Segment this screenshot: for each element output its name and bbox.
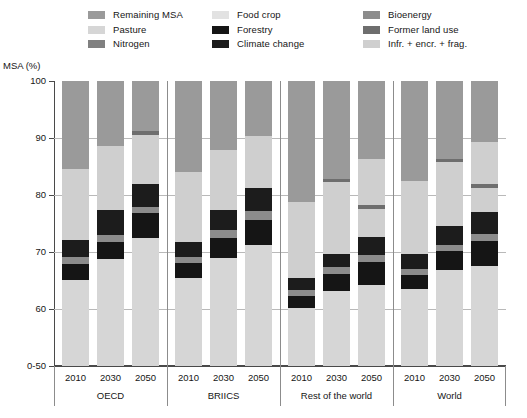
bar-group-oecd	[54, 81, 167, 366]
x-group-world: 201020302050World	[393, 366, 506, 418]
bar-segment-pasture	[288, 308, 315, 366]
bar-segment-climate_change	[358, 237, 385, 255]
x-axis: 201020302050OECD201020302050BRIICS201020…	[54, 366, 506, 418]
stacked-bar[interactable]	[175, 81, 202, 366]
y-tick-label: 70	[35, 246, 46, 257]
x-tick-label-year: 2050	[132, 372, 159, 383]
bar-segment-remaining_msa	[97, 81, 124, 146]
bar-segment-bioenergy	[471, 234, 498, 241]
stacked-bar[interactable]	[358, 81, 385, 366]
bar-segment-infr_encr_frag	[471, 188, 498, 212]
legend-label: Bioenergy	[388, 10, 432, 20]
legend-item-pasture[interactable]: Pasture	[88, 23, 183, 38]
bar-segment-forestry	[132, 213, 159, 238]
bar-segment-climate_change	[175, 242, 202, 257]
x-group-briics: 201020302050BRIICS	[167, 366, 280, 418]
stacked-bar[interactable]	[132, 81, 159, 366]
bar-segment-bioenergy	[358, 255, 385, 262]
bar-segment-pasture	[401, 289, 428, 366]
legend-column: Remaining MSAPastureNitrogen	[88, 8, 183, 52]
bar-segment-climate_change	[471, 212, 498, 234]
bar-segment-forestry	[97, 242, 124, 259]
x-tick-label-year: 2030	[97, 372, 124, 383]
bar-segment-remaining_msa	[210, 81, 237, 150]
bar-segment-remaining_msa	[358, 81, 385, 159]
legend-label: Climate change	[237, 39, 304, 49]
stacked-bar[interactable]	[401, 81, 428, 366]
y-axis-title: MSA (%)	[3, 60, 40, 71]
legend-item-former_land_use[interactable]: Former land use	[363, 23, 467, 38]
bar-segment-bioenergy	[62, 257, 89, 264]
legend-item-bioenergy[interactable]: Bioenergy	[363, 8, 467, 23]
bar-segment-infr_encr_frag	[358, 159, 385, 205]
bar-segment-infr_encr_frag	[245, 136, 272, 188]
x-group-label: World	[393, 390, 506, 401]
legend-item-climate_change[interactable]: Climate change	[212, 37, 304, 52]
bar-segment-infr_encr_frag	[358, 209, 385, 236]
bar-segment-remaining_msa	[323, 81, 350, 179]
bar-segment-infr_encr_frag	[62, 169, 89, 240]
bar-segment-forestry	[471, 241, 498, 266]
x-tick-label-year: 2030	[210, 372, 237, 383]
legend-item-food_crop[interactable]: Food crop	[212, 8, 304, 23]
bar-segment-forestry	[358, 262, 385, 285]
x-tick-label-year: 2030	[323, 372, 350, 383]
bar-segment-infr_encr_frag	[436, 162, 463, 226]
bar-segment-climate_change	[62, 240, 89, 257]
legend-item-nitrogen[interactable]: Nitrogen	[88, 37, 183, 52]
bar-segment-remaining_msa	[401, 81, 428, 181]
legend-label: Food crop	[237, 10, 281, 20]
bar-segment-forestry	[62, 264, 89, 280]
bar-segment-climate_change	[210, 210, 237, 231]
stacked-bar[interactable]	[436, 81, 463, 366]
legend-item-remaining_msa[interactable]: Remaining MSA	[88, 8, 183, 23]
legend-swatch-climate_change	[212, 40, 229, 48]
bar-segment-infr_encr_frag	[401, 181, 428, 254]
x-tick-label-year: 2010	[288, 372, 315, 383]
y-tick-label: 80	[35, 189, 46, 200]
legend-label: Forestry	[237, 25, 273, 35]
bar-segment-remaining_msa	[175, 81, 202, 172]
legend-label: Infr. + encr. + frag.	[388, 39, 467, 49]
x-group-oecd: 201020302050OECD	[54, 366, 167, 418]
stacked-bar[interactable]	[210, 81, 237, 366]
bar-segment-forestry	[323, 274, 350, 291]
bar-segment-forestry	[245, 220, 272, 245]
bar-segment-pasture	[471, 266, 498, 366]
stacked-bar[interactable]	[288, 81, 315, 366]
legend-swatch-bioenergy	[363, 11, 380, 19]
stacked-bar[interactable]	[62, 81, 89, 366]
x-tick-label-year: 2010	[62, 372, 89, 383]
stacked-bar[interactable]	[323, 81, 350, 366]
bar-segment-forestry	[288, 296, 315, 307]
bar-segment-pasture	[175, 278, 202, 366]
bar-group-rest-of-the-world	[280, 81, 393, 366]
bar-segment-remaining_msa	[132, 81, 159, 131]
bar-segment-bioenergy	[245, 211, 272, 220]
stacked-bar[interactable]	[97, 81, 124, 366]
bar-segment-bioenergy	[436, 245, 463, 252]
stacked-bar[interactable]	[471, 81, 498, 366]
bar-segment-climate_change	[288, 278, 315, 291]
y-tick-label: 60	[35, 303, 46, 314]
bar-segment-pasture	[62, 280, 89, 366]
legend-column: BioenergyFormer land useInfr. + encr. + …	[363, 8, 467, 52]
legend-swatch-food_crop	[212, 11, 229, 19]
stacked-bar[interactable]	[245, 81, 272, 366]
bar-segment-forestry	[401, 275, 428, 289]
bar-segment-climate_change	[323, 254, 350, 268]
bar-segment-forestry	[210, 238, 237, 259]
bar-segment-climate_change	[436, 226, 463, 245]
chart-page: Remaining MSAPastureNitrogenFood cropFor…	[0, 0, 527, 418]
bar-segment-infr_encr_frag	[288, 202, 315, 278]
y-tick-label: 100	[30, 75, 46, 86]
legend-item-forestry[interactable]: Forestry	[212, 23, 304, 38]
legend-swatch-remaining_msa	[88, 11, 105, 19]
bar-segment-pasture	[97, 259, 124, 366]
legend-item-infr_encr_frag[interactable]: Infr. + encr. + frag.	[363, 37, 467, 52]
x-tick-label-year: 2050	[358, 372, 385, 383]
bar-segment-infr_encr_frag	[175, 172, 202, 242]
x-tick-label-year: 2050	[471, 372, 498, 383]
bar-segment-pasture	[358, 285, 385, 366]
bar-group-world	[393, 81, 506, 366]
